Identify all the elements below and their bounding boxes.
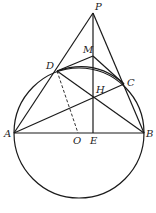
label-h: H [95, 84, 105, 95]
label-o: O [73, 135, 81, 146]
label-m: M [82, 44, 94, 55]
label-a: A [3, 128, 11, 139]
label-b: B [145, 128, 153, 139]
label-e: E [89, 135, 98, 146]
geometry-diagram: P M D C H A O E B [0, 0, 156, 213]
label-c: C [127, 77, 135, 88]
label-p: P [94, 1, 102, 12]
label-d: D [45, 60, 54, 71]
segment-do-dashed [57, 71, 78, 133]
segment-mc [93, 56, 124, 84]
